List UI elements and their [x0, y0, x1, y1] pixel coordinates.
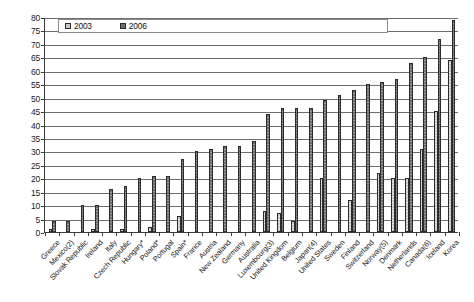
y-tick-mark: [41, 18, 44, 19]
bar: [66, 221, 70, 232]
x-tick-mark: [373, 232, 374, 236]
y-tick-label: 20: [31, 174, 40, 184]
bar-group: [359, 18, 373, 232]
plot-wrapper: 05101520253035404550556065707580: [44, 18, 458, 233]
bar: [438, 39, 442, 233]
bar-group: [402, 18, 416, 232]
bar-group: [173, 18, 187, 232]
bar-group: [159, 18, 173, 232]
bar-group: [416, 18, 430, 232]
bar-group: [373, 18, 387, 232]
bar-group: [316, 18, 330, 232]
bar: [95, 205, 99, 232]
x-tick-mark: [88, 232, 89, 236]
bar: [209, 149, 213, 232]
x-tick-mark: [430, 232, 431, 236]
bar-group: [188, 18, 202, 232]
bar-group: [245, 18, 259, 232]
y-tick-mark: [41, 99, 44, 100]
bar-group: [345, 18, 359, 232]
y-tick-label: 75: [31, 26, 40, 36]
x-tick-mark: [45, 232, 46, 236]
x-tick-mark: [173, 232, 174, 236]
y-tick-label: 55: [31, 80, 40, 90]
x-tick-mark: [416, 232, 417, 236]
x-tick-mark: [316, 232, 317, 236]
legend-entry-2006: 2006: [120, 21, 147, 31]
legend-swatch-icon: [65, 23, 71, 29]
bar-group: [145, 18, 159, 232]
y-tick-label: 65: [31, 53, 40, 63]
bar-group: [302, 18, 316, 232]
y-tick-label: 35: [31, 134, 40, 144]
bar: [452, 20, 456, 232]
y-tick-mark: [41, 233, 44, 234]
y-tick-mark: [41, 139, 44, 140]
bar-group: [231, 18, 245, 232]
y-tick-label: 25: [31, 161, 40, 171]
y-tick-label: 15: [31, 188, 40, 198]
y-tick-label: 70: [31, 40, 40, 50]
x-tick-mark: [116, 232, 117, 236]
bar: [380, 82, 384, 233]
bar: [195, 151, 199, 232]
x-tick-mark: [388, 232, 389, 236]
plot-area: [44, 18, 458, 233]
bar: [109, 189, 113, 232]
bar-group: [74, 18, 88, 232]
x-tick-mark: [131, 232, 132, 236]
bars-layer: [45, 18, 458, 232]
bar: [352, 90, 356, 232]
bar: [266, 114, 270, 232]
y-tick-mark: [41, 206, 44, 207]
bar-group: [445, 18, 459, 232]
x-tick-mark: [302, 232, 303, 236]
y-tick-mark: [41, 85, 44, 86]
bar: [423, 57, 427, 232]
bar-group: [216, 18, 230, 232]
bar: [52, 221, 56, 232]
x-tick-mark: [74, 232, 75, 236]
bar-group: [259, 18, 273, 232]
x-tick-mark: [202, 232, 203, 236]
bar: [295, 108, 299, 232]
bar: [309, 108, 313, 232]
bar: [238, 146, 242, 232]
x-axis-labels: GreeceMexico(2)Slovak RepublicIrelandIta…: [44, 238, 458, 302]
bar-group: [273, 18, 287, 232]
bar-group: [45, 18, 59, 232]
x-tick-mark: [273, 232, 274, 236]
bar-group: [202, 18, 216, 232]
bar-group: [131, 18, 145, 232]
x-tick-mark: [345, 232, 346, 236]
x-tick-mark: [188, 232, 189, 236]
bar: [395, 79, 399, 232]
x-tick-mark: [231, 232, 232, 236]
legend-entry-2003: 2003: [65, 21, 92, 31]
y-tick-label: 80: [31, 13, 40, 23]
bar: [323, 100, 327, 232]
x-tick-mark: [59, 232, 60, 236]
y-tick-label: 10: [31, 201, 40, 211]
bar: [252, 141, 256, 232]
y-tick-label: 5: [35, 215, 40, 225]
y-tick-label: 60: [31, 67, 40, 77]
y-tick-mark: [41, 193, 44, 194]
bar: [166, 176, 170, 232]
y-tick-mark: [41, 31, 44, 32]
x-tick-mark: [331, 232, 332, 236]
bar: [223, 146, 227, 232]
x-tick-mark: [288, 232, 289, 236]
chart-legend: 2003 2006: [58, 19, 388, 33]
legend-label: 2006: [129, 21, 147, 31]
bar: [181, 159, 185, 232]
x-tick-mark: [259, 232, 260, 236]
bar-group: [430, 18, 444, 232]
bar-chart: 05101520253035404550556065707580 2003 20…: [0, 0, 474, 302]
x-tick-mark: [102, 232, 103, 236]
y-tick-mark: [41, 179, 44, 180]
y-tick-mark: [41, 45, 44, 46]
bar: [409, 63, 413, 232]
bar-group: [331, 18, 345, 232]
y-tick-mark: [41, 126, 44, 127]
